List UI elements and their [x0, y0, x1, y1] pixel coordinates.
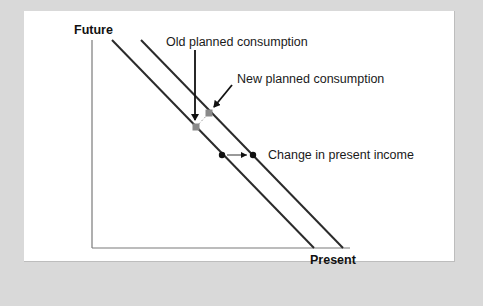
income-after-point — [250, 152, 256, 158]
income-change-label: Change in present income — [268, 148, 414, 162]
x-axis-label: Present — [310, 253, 357, 267]
new-planned-point — [206, 110, 213, 117]
y-axis-label: Future — [74, 23, 113, 37]
consumption-diagram: Future Present Old planned consumption N… — [0, 0, 483, 306]
old-planned-label: Old planned consumption — [166, 35, 308, 49]
new-planned-label: New planned consumption — [237, 72, 384, 86]
new-planned-arrow — [214, 85, 232, 107]
income-before-point — [219, 152, 225, 158]
old-planned-point — [193, 124, 200, 131]
